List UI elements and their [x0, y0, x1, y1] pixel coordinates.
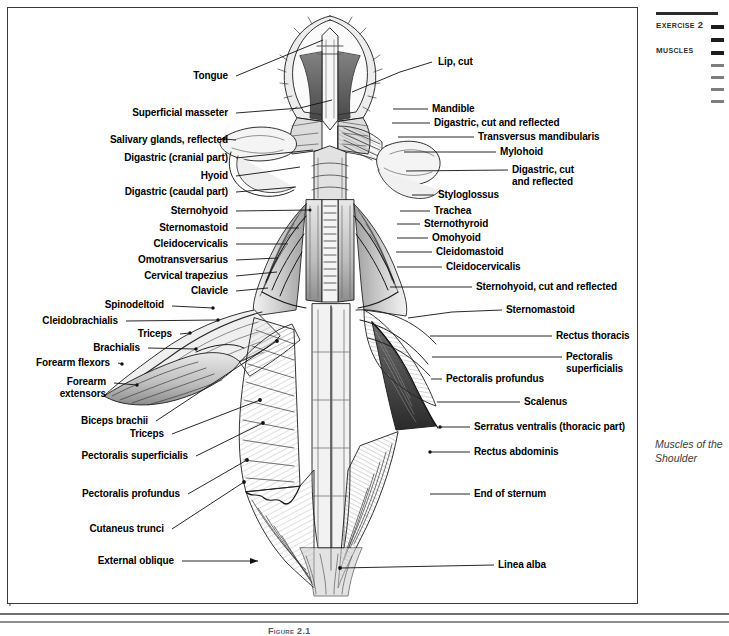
page-root: TongueSuperficial masseterSalivary gland… — [0, 0, 729, 636]
label-rectus-thoracis: Rectus thoracis — [556, 330, 630, 342]
thumb-tab-tab-7 — [711, 100, 724, 103]
label-mylohoid: Mylohoid — [500, 146, 543, 158]
thumb-tab-tab-3 — [711, 51, 724, 55]
label-brachialis: Brachialis — [93, 342, 140, 354]
label-tongue: Tongue — [193, 70, 228, 82]
label-linea-alba: Linea alba — [498, 559, 546, 571]
label-sternomastoid-l: Sternomastoid — [159, 222, 228, 234]
label-sternomastoid-r: Sternomastoid — [506, 304, 575, 316]
label-external-oblique: External oblique — [98, 555, 174, 567]
label-forearm-flexors: Forearm flexors — [36, 357, 110, 369]
margin-section-heading: Muscles — [656, 43, 694, 55]
label-omohyoid: Omohyoid — [432, 232, 481, 244]
label-pectoralis-superficialis-r: Pectoralissuperficialis — [566, 351, 658, 375]
label-cleidobrachialis: Cleidobrachialis — [42, 315, 118, 327]
label-trachea: Trachea — [434, 205, 471, 217]
label-lip-cut: Lip, cut — [438, 56, 473, 68]
label-pectoralis-profundus-l: Pectoralis profundus — [82, 488, 180, 500]
label-styloglossus: Styloglossus — [438, 189, 499, 201]
label-rectus-abdominis: Rectus abdominis — [474, 446, 559, 458]
label-cervical-trapezius: Cervical trapezius — [144, 270, 228, 282]
margin-exercise-heading: Exercise 2 — [656, 18, 704, 30]
thumb-tab-tab-5 — [711, 76, 724, 79]
label-digastric-cranial: Digastric (cranial part) — [124, 152, 228, 164]
label-cutaneus-trunci: Cutaneus trunci — [89, 523, 164, 535]
label-end-of-sternum: End of sternum — [474, 488, 546, 500]
label-digastric-cut-2: Digastric, cutand reflected — [512, 164, 604, 188]
label-triceps-upper: Triceps — [138, 328, 172, 340]
label-transversus-mandibularis: Transversus mandibularis — [478, 131, 600, 143]
label-digastric-caudal: Digastric (caudal part) — [125, 186, 228, 198]
label-mandible: Mandible — [432, 103, 475, 115]
label-scalenus: Scalenus — [524, 396, 567, 408]
thumb-tab-tab-2 — [711, 38, 724, 42]
side-caption: Muscles of the Shoulder — [655, 437, 727, 465]
footer-rule-bottom — [0, 621, 729, 623]
label-spinodeltoid: Spinodeltoid — [105, 299, 164, 311]
label-sternohyoid-cut: Sternohyoid, cut and reflected — [476, 281, 617, 293]
label-clavicle: Clavicle — [191, 285, 228, 297]
label-pectoralis-superficialis-l: Pectoralis superficialis — [81, 450, 188, 462]
label-pectoralis-profundus-r: Pectoralis profundus — [446, 373, 544, 385]
margin-rule — [656, 12, 718, 15]
label-hyoid: Hyoid — [201, 170, 228, 182]
thumb-tab-marks — [711, 25, 727, 112]
label-serratus-ventralis: Serratus ventralis (thoracic part) — [474, 421, 625, 433]
label-sternothyroid: Sternothyroid — [424, 218, 488, 230]
footer-rule-top — [0, 613, 729, 615]
label-superficial-masseter: Superficial masseter — [132, 107, 228, 119]
label-biceps-brachii: Biceps brachii — [81, 415, 148, 427]
label-omotransversarius: Omotransversarius — [138, 254, 228, 266]
thumb-tab-tab-6 — [711, 88, 724, 91]
margin-column: Exercise 2 Muscles Muscles of the Should… — [648, 0, 729, 636]
label-triceps-lower: Triceps — [130, 428, 164, 440]
label-sternohyoid-l: Sternohyoid — [171, 205, 228, 217]
label-digastric-cut-1: Digastric, cut and reflected — [434, 117, 560, 129]
thumb-tab-tab-4 — [711, 64, 724, 67]
label-salivary-glands: Salivary glands, reflected — [110, 134, 228, 146]
thumb-tab-tab-1 — [711, 25, 724, 29]
label-cleidocervicalis-l: Cleidocervicalis — [153, 238, 228, 250]
label-cleidomastoid: Cleidomastoid — [436, 246, 504, 258]
figure-caption: Figure 2.1 — [268, 626, 311, 635]
label-forearm-extensors: Forearmextensors — [14, 376, 106, 400]
label-cleidocervicalis-r: Cleidocervicalis — [446, 261, 521, 273]
